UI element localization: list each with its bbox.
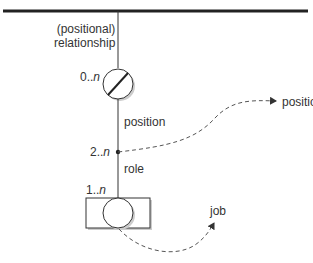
relationship-label-line1: (positional) <box>54 22 115 36</box>
position-label: position <box>124 115 165 129</box>
job-target-label: job <box>210 204 226 218</box>
bottom-circle-icon <box>103 198 133 228</box>
multiplicity-top: 0..n <box>80 70 100 84</box>
diagram-canvas <box>0 0 313 263</box>
relationship-label-line2: relationship <box>54 36 115 50</box>
multiplicity-top-prefix: 0.. <box>80 70 93 84</box>
multiplicity-mid-var: n <box>103 145 110 159</box>
multiplicity-mid-prefix: 2.. <box>90 145 103 159</box>
multiplicity-top-var: n <box>93 70 100 84</box>
relationship-label: (positional) relationship <box>54 22 115 50</box>
multiplicity-bottom: 1..n <box>86 183 106 197</box>
position-target-label: position <box>282 95 313 109</box>
multiplicity-bottom-prefix: 1.. <box>86 183 99 197</box>
multiplicity-mid: 2..n <box>90 145 110 159</box>
multiplicity-bottom-var: n <box>99 183 106 197</box>
role-label: role <box>124 162 144 176</box>
